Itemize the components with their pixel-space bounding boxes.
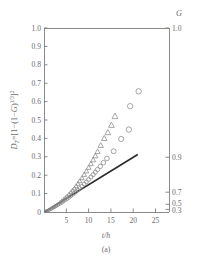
right-tick-label: 1.0 [172, 24, 182, 33]
data-point-triangles [98, 143, 103, 148]
data-point-triangles [109, 122, 115, 127]
data-point-triangles [102, 135, 107, 140]
data-point-circles [105, 156, 110, 161]
ytick-label: 0.1 [32, 189, 42, 198]
data-point-circles [127, 104, 132, 109]
xtick-label: 20 [129, 216, 137, 225]
axes-frame [44, 28, 169, 212]
left-axis-ticks [44, 28, 48, 212]
right-tick-label: 0.7 [172, 188, 182, 197]
data-point-circles [101, 160, 106, 165]
ytick-label: 0.3 [32, 152, 42, 161]
ytick-label: 0 [37, 208, 41, 217]
y-axis-title-sq: 2 [9, 90, 15, 93]
data-point-circles [136, 89, 141, 94]
chart-svg: 0 0.1 0.2 0.3 0.4 0.5 0.6 0.7 0.8 0.9 1.… [0, 0, 202, 262]
ytick-label: 0.6 [32, 97, 42, 106]
data-point-circles [87, 177, 91, 181]
ytick-label: 0.8 [32, 60, 42, 69]
data-point-triangles [112, 113, 118, 119]
right-tick-label: 0.3 [172, 206, 182, 215]
xtick-label: 15 [107, 216, 115, 225]
data-point-circles [119, 136, 124, 141]
xtick-label: 5 [64, 216, 68, 225]
x-axis-tick-labels: 5 10 15 20 25 [64, 216, 159, 225]
xtick-label: 25 [152, 216, 160, 225]
svg-text:DT=[1−(1−G)1/3]2: DT=[1−(1−G)1/3]2 [9, 90, 20, 150]
right-tick-label: 0.9 [172, 153, 182, 162]
x-axis-ticks [66, 209, 155, 213]
right-axis-ticks [166, 28, 170, 209]
ytick-label: 0.9 [32, 42, 42, 51]
left-axis-tick-labels: 0 0.1 0.2 0.3 0.4 0.5 0.6 0.7 0.8 0.9 1.… [32, 24, 42, 217]
data-point-circles [126, 127, 131, 132]
y-axis-title-eq: =[1−(1− [10, 112, 19, 140]
y-axis-title-D: D [10, 143, 19, 150]
ytick-label: 0.2 [32, 171, 42, 180]
figure-caption: (a) [102, 245, 111, 254]
data-point-circles [80, 184, 84, 188]
series-layer-triangles [44, 113, 118, 212]
y-axis-title: DT=[1−(1−G)1/3]2 [9, 90, 20, 150]
ytick-label: 0.5 [32, 116, 42, 125]
ytick-label: 1.0 [32, 24, 42, 33]
x-axis-title: t/h [102, 231, 110, 240]
right-axis-tick-labels: 1.0 0.9 0.7 0.5 0.3 [172, 24, 182, 215]
ytick-label: 0.7 [32, 79, 42, 88]
data-point-circles [111, 149, 116, 154]
data-point-triangles [105, 129, 111, 134]
ytick-label: 0.4 [32, 134, 42, 143]
data-point-triangles [95, 149, 100, 154]
data-point-circles [84, 180, 88, 184]
series-layer-circles [45, 89, 142, 213]
right-axis-title: G [176, 9, 182, 18]
data-point-circles [82, 182, 86, 186]
xtick-label: 10 [85, 216, 93, 225]
figure-panel: 0 0.1 0.2 0.3 0.4 0.5 0.6 0.7 0.8 0.9 1.… [0, 0, 202, 262]
